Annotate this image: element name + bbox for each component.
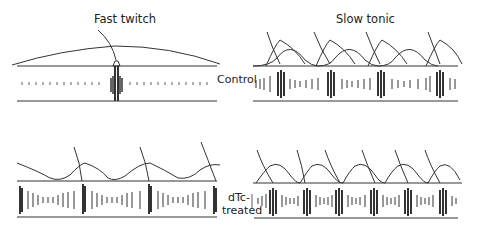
slow-tonic-control <box>253 32 462 101</box>
diagram <box>0 0 480 227</box>
fast-twitch-dtc <box>17 142 220 217</box>
fast-twitch-control <box>12 30 220 101</box>
slow-tonic-dtc <box>252 150 462 218</box>
